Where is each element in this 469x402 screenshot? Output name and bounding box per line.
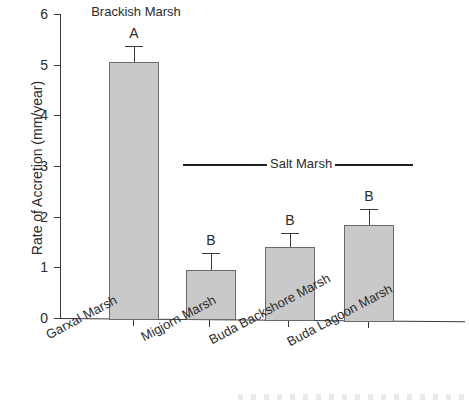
y-axis-tick-label-text: 3 [24,159,48,173]
y-axis-tick-label: 3 [24,159,48,173]
brackish-marsh-group-label: Brackish Marsh [66,4,206,19]
y-axis-tick [54,65,60,66]
y-axis-tick-label: 4 [24,108,48,122]
error-bar-stem [211,253,212,270]
y-axis-tick [54,318,60,319]
y-axis-tick-label-text: 1 [24,260,48,274]
significance-letter: A [119,26,149,40]
y-axis-tick [54,14,60,15]
y-axis-tick-label: 5 [24,58,48,72]
error-bar-stem [369,209,370,225]
scan-artifact [238,394,466,400]
significance-letter: B [354,189,384,203]
y-axis-tick-label-text: 0 [24,311,48,325]
y-axis-tick-label-text: 6 [24,7,48,21]
error-bar-cap [202,253,220,254]
error-bar-stem [134,46,135,62]
y-axis-tick-label: 1 [24,260,48,274]
y-axis-line [60,14,61,319]
y-axis-tick [54,217,60,218]
x-axis-tick [288,320,289,327]
y-axis-tick-label-text: 5 [24,58,48,72]
significance-letter: B [275,213,305,227]
y-axis-tick-label: 0 [24,311,48,325]
x-axis-tick [368,321,369,328]
y-axis-tick-label: 2 [24,210,48,224]
error-bar-cap [125,46,143,47]
y-axis-tick [54,267,60,268]
error-bar-cap [281,233,299,234]
error-bar-cap [360,209,378,210]
y-axis-tick-label-text: 2 [24,210,48,224]
error-bar-stem [290,233,291,247]
y-axis-tick [54,166,60,167]
y-axis-tick [54,115,60,116]
accretion-rate-bar-chart: Rate of Accretion (mm/year) 6543210 ABBB… [0,0,469,402]
y-axis-tick-label-text: 4 [24,108,48,122]
salt-marsh-group-label: Salt Marsh [267,156,335,171]
significance-letter: B [196,233,226,247]
x-axis-tick [133,319,134,326]
bar [109,62,159,320]
x-axis-tick [209,320,210,327]
y-axis-tick-label: 6 [24,7,48,21]
